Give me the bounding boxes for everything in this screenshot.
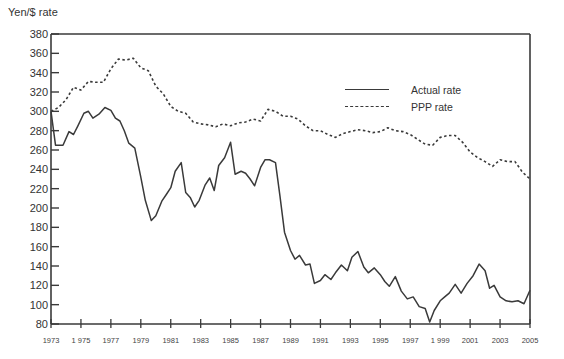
- svg-text:380: 380: [30, 28, 48, 40]
- svg-text:200: 200: [30, 202, 48, 214]
- svg-text:80: 80: [36, 318, 48, 330]
- svg-text:2003: 2003: [492, 336, 509, 345]
- svg-text:1 999: 1 999: [431, 336, 450, 345]
- svg-text:1 975: 1 975: [72, 336, 91, 345]
- svg-text:1987: 1987: [252, 336, 269, 345]
- axes: [51, 34, 530, 324]
- svg-text:120: 120: [30, 279, 48, 291]
- legend-item-ppp: PPP rate: [345, 98, 461, 115]
- svg-text:1995: 1995: [372, 336, 389, 345]
- svg-text:2001: 2001: [462, 336, 479, 345]
- svg-text:1985: 1985: [222, 336, 239, 345]
- legend-label-actual: Actual rate: [411, 84, 461, 96]
- svg-text:360: 360: [30, 47, 48, 59]
- svg-text:320: 320: [30, 86, 48, 98]
- legend: Actual rate PPP rate: [345, 81, 461, 115]
- ppp-rate-line: [51, 58, 530, 179]
- line-chart: 8010012014016018020022024026028030032034…: [0, 0, 564, 359]
- x-axis-ticks: 19731 9751977197919811983198519871989199…: [43, 319, 539, 345]
- svg-text:1981: 1981: [162, 336, 179, 345]
- dashed-line-swatch-icon: [345, 106, 389, 107]
- svg-text:240: 240: [30, 163, 48, 175]
- legend-label-ppp: PPP rate: [411, 101, 453, 113]
- solid-line-swatch-icon: [345, 89, 389, 90]
- svg-text:140: 140: [30, 260, 48, 272]
- svg-text:1977: 1977: [103, 336, 120, 345]
- svg-text:100: 100: [30, 299, 48, 311]
- svg-text:1983: 1983: [192, 336, 209, 345]
- svg-text:1997: 1997: [402, 336, 419, 345]
- svg-text:1989: 1989: [282, 336, 299, 345]
- legend-item-actual: Actual rate: [345, 81, 461, 98]
- svg-text:220: 220: [30, 183, 48, 195]
- svg-text:1993: 1993: [342, 336, 359, 345]
- svg-text:340: 340: [30, 67, 48, 79]
- svg-text:2005: 2005: [522, 336, 539, 345]
- y-axis-ticks: 8010012014016018020022024026028030032034…: [30, 28, 59, 330]
- actual-rate-line: [51, 108, 530, 323]
- svg-text:300: 300: [30, 105, 48, 117]
- svg-text:260: 260: [30, 144, 48, 156]
- svg-text:160: 160: [30, 241, 48, 253]
- svg-text:280: 280: [30, 125, 48, 137]
- svg-text:1991: 1991: [312, 336, 329, 345]
- svg-text:1973: 1973: [43, 336, 60, 345]
- svg-text:180: 180: [30, 221, 48, 233]
- svg-text:1979: 1979: [132, 336, 149, 345]
